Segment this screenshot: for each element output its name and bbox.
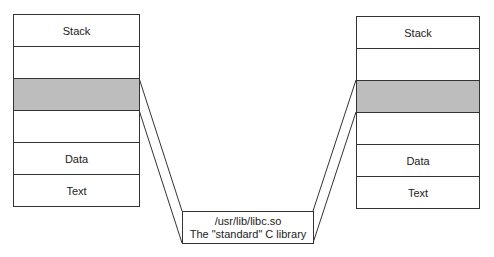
data-segment: Data [14, 143, 139, 175]
stack-segment: Stack [14, 15, 139, 47]
shared-library-mapping [357, 81, 479, 113]
free-segment [14, 47, 139, 79]
right-process-memory: Stack Data Text [356, 16, 480, 209]
free-segment [357, 113, 479, 145]
library-path: /usr/lib/libc.so [215, 215, 282, 228]
shared-library-mapping [14, 79, 139, 111]
free-segment [14, 111, 139, 143]
data-segment: Data [357, 145, 479, 177]
shared-library-box: /usr/lib/libc.so The "standard" C librar… [182, 211, 314, 244]
text-segment: Text [14, 175, 139, 207]
left-process-memory: Stack Data Text [13, 14, 140, 207]
stack-segment: Stack [357, 17, 479, 49]
free-segment [357, 49, 479, 81]
text-segment: Text [357, 177, 479, 209]
library-description: The "standard" C library [190, 228, 307, 241]
